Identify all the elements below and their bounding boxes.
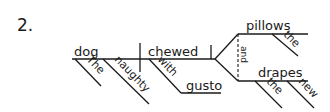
problem-number: 2. <box>17 15 33 35</box>
conjunction-and: and <box>239 46 249 63</box>
sentence-diagram: 2. dog The naughty chewed with gusto and… <box>0 0 330 112</box>
verb-word: chewed <box>148 44 198 59</box>
object-drapes: drapes <box>258 65 303 80</box>
prep-object-gusto: gusto <box>186 78 222 93</box>
object-pillows: pillows <box>246 18 291 33</box>
fork-upper <box>215 34 238 59</box>
